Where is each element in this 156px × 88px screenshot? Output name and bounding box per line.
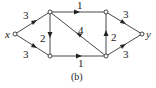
arrow-icon-x-a [31, 20, 37, 25]
node-b [48, 54, 52, 58]
weight-d-c: 2 [111, 31, 117, 43]
weight-x-a: 3 [23, 9, 29, 21]
weight-b-d: 1 [78, 57, 84, 69]
node-label-x: x [4, 28, 10, 40]
node-a [48, 10, 52, 14]
arrow-icon-a-b [48, 32, 53, 38]
figure-caption: (b) [71, 71, 83, 83]
arrow-icon-d-c [104, 30, 109, 36]
node-y [140, 32, 144, 36]
network-flow-diagram: x y 3 3 1 1 2 4 2 3 3 (b) [0, 0, 156, 88]
node-x [13, 32, 17, 36]
weight-d-y: 3 [123, 48, 129, 60]
node-c [104, 10, 108, 14]
weight-d-a: 4 [78, 24, 84, 36]
weight-a-c: 1 [77, 0, 83, 11]
arrow-icon-x-b [31, 43, 37, 48]
node-label-y: y [145, 28, 151, 40]
weight-a-b: 2 [40, 32, 46, 44]
weight-x-b: 3 [23, 48, 29, 60]
node-d [104, 54, 108, 58]
weight-c-y: 3 [123, 8, 129, 20]
